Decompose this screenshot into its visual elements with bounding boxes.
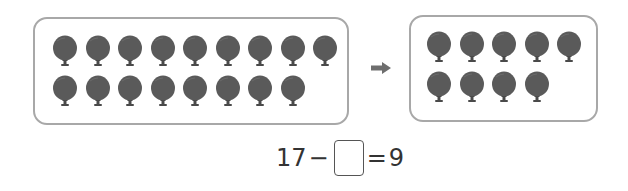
balloon-icon (555, 31, 583, 67)
right-balloon-group (409, 15, 598, 122)
subtraction-equation: 17 − = 9 (276, 138, 404, 178)
empty-slot (311, 75, 339, 111)
balloon-icon (311, 35, 339, 71)
balloon-icon (214, 35, 242, 71)
balloon-icon (458, 71, 486, 107)
result: 9 (389, 138, 404, 178)
balloon-icon (279, 75, 307, 111)
balloon-icon (246, 35, 274, 71)
balloon-icon (523, 71, 551, 107)
minuend: 17 (276, 138, 307, 178)
balloon-icon (181, 75, 209, 111)
balloon-icon (279, 35, 307, 71)
balloon-icon (149, 35, 177, 71)
answer-input-box[interactable] (334, 140, 364, 176)
balloon-icon (84, 35, 112, 71)
left-balloon-group (33, 17, 349, 125)
balloon-icon (425, 31, 453, 67)
balloon-icon (425, 71, 453, 107)
balloon-icon (84, 75, 112, 111)
balloon-icon (149, 75, 177, 111)
balloon-icon (51, 35, 79, 71)
equals-sign: = (367, 138, 387, 178)
left-balloon-grid (51, 35, 344, 115)
balloon-icon (458, 31, 486, 67)
balloon-icon (116, 75, 144, 111)
balloon-icon (51, 75, 79, 111)
balloon-icon (490, 31, 518, 67)
balloon-icon (181, 35, 209, 71)
right-arrow-icon (371, 62, 391, 74)
minus-sign: − (309, 138, 329, 178)
balloon-icon (214, 75, 242, 111)
balloon-icon (246, 75, 274, 111)
empty-slot (555, 71, 583, 107)
right-balloon-grid (425, 31, 588, 111)
balloon-icon (116, 35, 144, 71)
balloon-icon (523, 31, 551, 67)
balloon-icon (490, 71, 518, 107)
